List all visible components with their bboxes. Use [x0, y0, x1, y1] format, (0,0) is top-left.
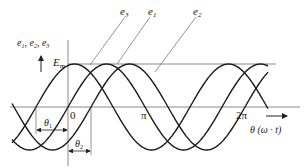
- three-phase-waveform-diagram: e3 e1 e2 e1, e2, e3 Em 0 π 2π θ (ω · t) …: [0, 0, 304, 168]
- theta2-label: θ2: [75, 138, 83, 150]
- y-axis-label: e1, e2, e3: [17, 37, 49, 49]
- e2-label: e2: [193, 5, 202, 19]
- pi-label: π: [141, 109, 147, 121]
- theta1-label: θ1: [44, 117, 52, 129]
- e1-pointer: [117, 17, 150, 64]
- e3-pointer: [90, 17, 125, 65]
- e3-label: e3: [120, 5, 129, 19]
- e1-label: e1: [148, 5, 156, 19]
- amplitude-label: Em: [52, 56, 66, 70]
- origin-label: 0: [70, 109, 76, 121]
- two-pi-label: 2π: [236, 109, 248, 121]
- x-axis-label: θ (ω · t): [250, 124, 282, 136]
